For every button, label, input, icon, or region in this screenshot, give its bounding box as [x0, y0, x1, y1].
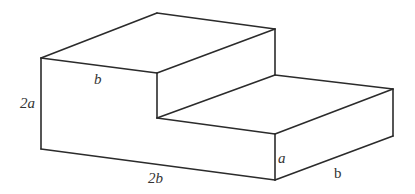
label-left-height: 2a: [20, 95, 35, 111]
edge-step-front: [157, 118, 275, 134]
edge-step-back: [275, 75, 393, 89]
edge-top-back: [157, 13, 275, 29]
edge-top-left: [41, 13, 157, 58]
edge-step-right: [275, 89, 393, 134]
edge-step-inner: [157, 75, 275, 118]
label-bottom-length: 2b: [148, 170, 164, 186]
step-block-diagram: b 2a 2b a b: [0, 0, 415, 194]
label-top-width: b: [94, 71, 102, 87]
edge-top-right: [157, 29, 275, 73]
block-edges: [41, 13, 393, 180]
dimension-labels: b 2a 2b a b: [20, 71, 342, 186]
label-right-depth: b: [334, 165, 342, 181]
label-front-step-height: a: [278, 150, 286, 166]
